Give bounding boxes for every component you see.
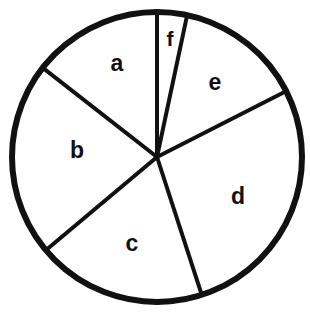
sector-label-e: e <box>209 71 222 94</box>
sector-label-c: c <box>126 232 139 255</box>
pie-chart-figure: a b c d e f <box>0 0 310 313</box>
sector-label-a: a <box>111 52 124 75</box>
sector-label-f: f <box>167 28 174 49</box>
sector-label-b: b <box>70 139 84 162</box>
pie-chart-svg <box>0 0 310 313</box>
sector-label-d: d <box>231 185 245 208</box>
